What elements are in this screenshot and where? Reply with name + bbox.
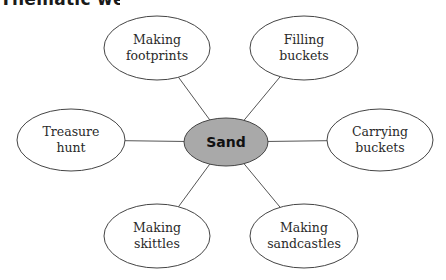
node-label-filling-buckets: Fillingbuckets xyxy=(279,32,328,64)
node-label-treasure-hunt: Treasurehunt xyxy=(42,124,99,156)
node-label-line: Filling xyxy=(279,32,328,48)
node-label-line: Treasure xyxy=(42,124,99,140)
connector-making-skittles xyxy=(178,164,209,207)
node-label-line: skittles xyxy=(133,236,181,252)
connector-making-footprints xyxy=(178,77,209,120)
node-label-line: Making xyxy=(133,220,181,236)
node-label-line: Making xyxy=(267,220,341,236)
connector-making-sandcastles xyxy=(244,164,280,208)
node-label-line: Carrying xyxy=(352,124,408,140)
node-label-making-footprints: Makingfootprints xyxy=(126,32,188,64)
center-label: Sand xyxy=(206,134,246,150)
node-label-carrying-buckets: Carryingbuckets xyxy=(352,124,408,156)
node-label-line: footprints xyxy=(126,48,188,64)
connector-carrying-buckets xyxy=(268,141,327,142)
node-label-line: hunt xyxy=(42,140,99,156)
node-label-line: buckets xyxy=(352,140,408,156)
connector-treasure-hunt xyxy=(125,141,184,142)
connector-filling-buckets xyxy=(244,77,280,121)
node-label-line: buckets xyxy=(279,48,328,64)
node-label-making-skittles: Makingskittles xyxy=(133,220,181,252)
node-label-making-sandcastles: Makingsandcastles xyxy=(267,220,341,252)
node-label-line: Making xyxy=(126,32,188,48)
node-label-line: sandcastles xyxy=(267,236,341,252)
